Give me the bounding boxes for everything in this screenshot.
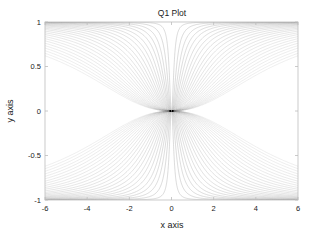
- plot-curve: [172, 111, 309, 197]
- plot-curve: [172, 111, 309, 199]
- plot-curve: [172, 111, 309, 200]
- x-tick-label: 6: [296, 204, 300, 213]
- y-tick-label: -1: [34, 196, 41, 205]
- y-tick-label: 1: [37, 18, 41, 27]
- y-tick-label: 0: [37, 107, 41, 116]
- plot-curve: [172, 111, 309, 200]
- x-axis-label: x axis: [160, 220, 184, 230]
- plot-curve: [35, 35, 172, 111]
- plot-curve: [35, 111, 172, 199]
- plot-curve: [35, 111, 172, 200]
- plot-curve: [35, 111, 172, 200]
- x-tick-label: 4: [254, 204, 258, 213]
- plot-canvas: Q1 Plot -6-4-20246 -1-0.500.51 x axis y …: [0, 0, 313, 240]
- plot-curve: [172, 22, 309, 111]
- plot-curve: [172, 25, 309, 111]
- x-tick-label: 2: [212, 204, 216, 213]
- x-tick-label: -4: [84, 204, 91, 213]
- plot-curve: [35, 22, 172, 111]
- plot-curve: [172, 23, 309, 111]
- plot-curve: [35, 30, 172, 111]
- plot-curve: [35, 111, 172, 177]
- plot-curve: [172, 111, 309, 187]
- x-tick-label: 0: [169, 204, 173, 213]
- plot-curve: [35, 111, 172, 197]
- y-axis-label: y axis: [5, 99, 15, 123]
- chart-figure: Q1 Plot -6-4-20246 -1-0.500.51 x axis y …: [0, 0, 313, 240]
- plot-curve: [172, 30, 309, 111]
- plot-curve: [35, 45, 172, 111]
- plot-curve: [35, 22, 172, 111]
- curve-series-group: [35, 22, 308, 200]
- plot-curve: [35, 22, 172, 111]
- plot-curve: [172, 22, 309, 111]
- plot-curve: [35, 111, 172, 200]
- y-tick-label: 0.5: [31, 62, 41, 71]
- chart-title: Q1 Plot: [158, 8, 187, 18]
- plot-curve: [172, 35, 309, 111]
- plot-curve: [172, 45, 309, 111]
- plot-curve: [172, 111, 309, 192]
- plot-curve: [172, 111, 309, 200]
- plot-curve: [35, 111, 172, 187]
- plot-curve: [172, 111, 309, 177]
- x-tick-label: -2: [126, 204, 133, 213]
- y-tick-label: -0.5: [28, 151, 41, 160]
- plot-curve: [35, 23, 172, 111]
- plot-curve: [35, 111, 172, 192]
- plot-curve: [35, 25, 172, 111]
- x-tick-label: -6: [42, 204, 49, 213]
- plot-curve: [172, 22, 309, 111]
